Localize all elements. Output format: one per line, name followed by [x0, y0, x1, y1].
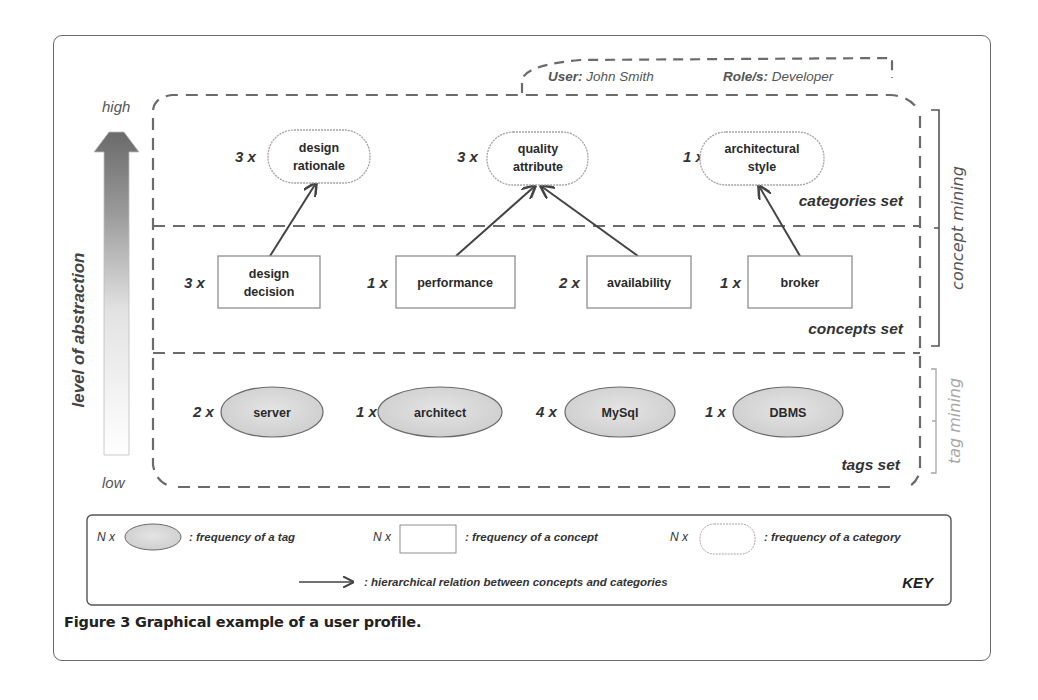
- concepts-set-label: concepts set: [808, 320, 904, 337]
- category-label: quality: [518, 142, 558, 156]
- user-role-header: User: John Smith Role/s: Developer: [522, 58, 892, 93]
- relation-arrow: [456, 186, 535, 256]
- user-label: User: John Smith: [548, 69, 654, 84]
- categories-set: 3 x design rationale 3 x quality attribu…: [235, 130, 904, 209]
- concept-mining-label: concept mining: [948, 166, 967, 290]
- tags-set: 2 x server 1 x architect 4 x MySql 1 x D…: [192, 387, 901, 473]
- concept-count: 1 x: [720, 274, 742, 291]
- legend-tag-ellipse-icon: [125, 524, 181, 550]
- tag-node: 1 x DBMS: [705, 387, 843, 437]
- concept-node: 2 x availability: [558, 256, 691, 308]
- category-label: rationale: [293, 159, 345, 173]
- legend-n-tag: N x: [97, 530, 116, 544]
- category-node: 3 x quality attribute: [457, 132, 588, 185]
- category-label: style: [748, 160, 777, 174]
- tag-node: 4 x MySql: [535, 387, 675, 437]
- legend-tag-desc: : frequency of a tag: [189, 531, 295, 543]
- relation-arrow: [759, 186, 800, 256]
- legend-key: N x : frequency of a tag N x : frequency…: [87, 515, 951, 605]
- concept-mining-bracket: concept mining: [931, 110, 967, 346]
- relation-arrow: [270, 183, 316, 256]
- concept-label: design: [249, 267, 289, 281]
- categories-set-label: categories set: [799, 192, 904, 209]
- tag-label: architect: [414, 406, 467, 420]
- tag-mining-bracket: tag mining: [931, 369, 964, 473]
- tag-label: server: [253, 406, 291, 420]
- concept-node: 1 x performance: [367, 256, 515, 308]
- legend-relation-desc: : hierarchical relation between concepts…: [364, 576, 668, 588]
- category-count: 3 x: [457, 148, 479, 165]
- abstraction-arrow-icon: [94, 132, 139, 455]
- category-node: 1 x architectural style: [683, 132, 824, 185]
- tag-count: 1 x: [705, 403, 727, 420]
- concepts-set: 3 x design decision 1 x performance 2 x …: [184, 256, 904, 337]
- legend-title: KEY: [902, 574, 935, 591]
- abstraction-axis: high level of abstraction low: [69, 98, 139, 491]
- legend-category-pill-icon: [700, 524, 755, 554]
- concept-count: 3 x: [184, 274, 206, 291]
- tag-label: DBMS: [770, 406, 807, 420]
- category-node: 3 x design rationale: [235, 130, 370, 183]
- tag-count: 4 x: [535, 403, 558, 420]
- concept-count: 2 x: [558, 274, 581, 291]
- legend-concept-box-icon: [400, 525, 456, 553]
- axis-title: level of abstraction: [69, 253, 88, 408]
- legend-n-concept: N x: [373, 530, 392, 544]
- concept-node: 1 x broker: [720, 256, 852, 308]
- concept-label: performance: [417, 276, 493, 290]
- tag-count: 1 x: [356, 403, 378, 420]
- concept-label: availability: [607, 276, 671, 290]
- category-label: architectural: [724, 142, 799, 156]
- tag-mining-label: tag mining: [945, 378, 964, 464]
- concept-count: 1 x: [367, 274, 389, 291]
- legend-concept-desc: : frequency of a concept: [465, 531, 599, 543]
- concept-node: 3 x design decision: [184, 256, 320, 308]
- tags-set-label: tags set: [841, 456, 900, 473]
- relation-arrows: [270, 183, 800, 256]
- legend-n-category: N x: [670, 530, 689, 544]
- concept-label: broker: [781, 276, 820, 290]
- relation-arrow: [541, 186, 638, 256]
- tag-count: 2 x: [192, 403, 215, 420]
- tag-label: MySql: [602, 406, 639, 420]
- figure-caption: Figure 3 Graphical example of a user pro…: [64, 614, 421, 630]
- axis-high-label: high: [102, 98, 130, 115]
- tag-node: 1 x architect: [356, 387, 502, 437]
- axis-low-label: low: [102, 474, 126, 491]
- user-profile-diagram: User: John Smith Role/s: Developer high …: [0, 0, 1038, 700]
- tag-node: 2 x server: [192, 387, 323, 437]
- legend-category-desc: : frequency of a category: [764, 531, 901, 543]
- category-count: 3 x: [235, 148, 257, 165]
- role-label: Role/s: Developer: [723, 69, 834, 84]
- concept-label: decision: [244, 285, 295, 299]
- category-label: design: [299, 141, 339, 155]
- category-label: attribute: [513, 160, 563, 174]
